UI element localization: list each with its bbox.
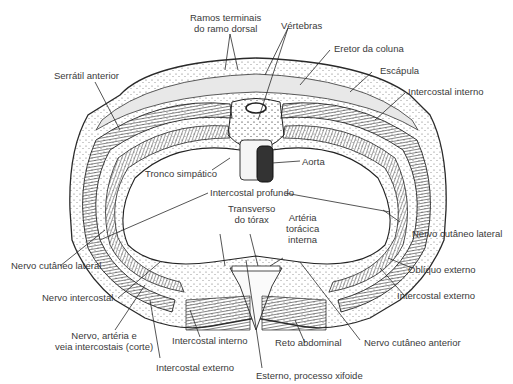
label-nervo-arteria-veia: Nervo, artéria e veia intercostais (cort…: [55, 330, 153, 352]
label-reto-abdominal: Reto abdominal: [275, 337, 342, 348]
label-ramos-terminais: Ramos terminais do ramo dorsal: [190, 12, 261, 34]
label-vertebras: Vértebras: [281, 20, 322, 31]
label-nervo-cutaneo-anterior: Nervo cutâneo anterior: [364, 337, 461, 348]
label-arteria-toracica-interna: Artéria torácica interna: [286, 212, 319, 245]
label-intercostal-profundo: Intercostal profundo: [210, 187, 294, 198]
label-nervo-cutaneo-lateral-left: Nervo cutâneo lateral: [11, 260, 101, 271]
label-text: Transverso: [228, 203, 275, 214]
label-eretor-da-coluna: Eretor da coluna: [334, 43, 404, 54]
label-intercostal-interno-bottom: Intercostal interno: [172, 335, 248, 346]
label-aorta: Aorta: [302, 156, 325, 167]
label-intercostal-interno-top: Intercostal interno: [408, 86, 484, 97]
rectus-abdominis-right: [262, 296, 326, 330]
label-serratil-anterior: Serrátil anterior: [54, 70, 119, 81]
label-text: do ramo dorsal: [190, 23, 261, 34]
aorta: [257, 146, 273, 182]
transversus-thoracis: [232, 266, 280, 271]
label-text: Ramos terminais: [190, 12, 261, 23]
label-text: torácica: [286, 223, 319, 234]
label-text: Artéria: [286, 212, 319, 223]
label-text: do tórax: [228, 214, 275, 225]
label-nervo-intercostal: Nervo intercostal: [42, 292, 113, 303]
label-nervo-cutaneo-lateral-right: Nervo cutâneo lateral: [412, 228, 502, 239]
label-text: veia intercostais (corte): [55, 341, 153, 352]
label-intercostal-externo-right: Intercostal externo: [397, 290, 475, 301]
label-obliquo-externo: Oblíquo externo: [408, 264, 476, 275]
label-tronco-simpatico: Tronco simpático: [145, 168, 217, 179]
label-text: Nervo, artéria e: [55, 330, 153, 341]
label-transverso-do-torax: Transverso do tórax: [228, 203, 275, 225]
label-intercostal-externo-bottom: Intercostal externo: [156, 362, 234, 373]
label-text: interna: [286, 234, 319, 245]
label-escapula: Escápula: [380, 65, 419, 76]
label-esterno-processo-xifoide: Esterno, processo xifoide: [256, 370, 363, 381]
